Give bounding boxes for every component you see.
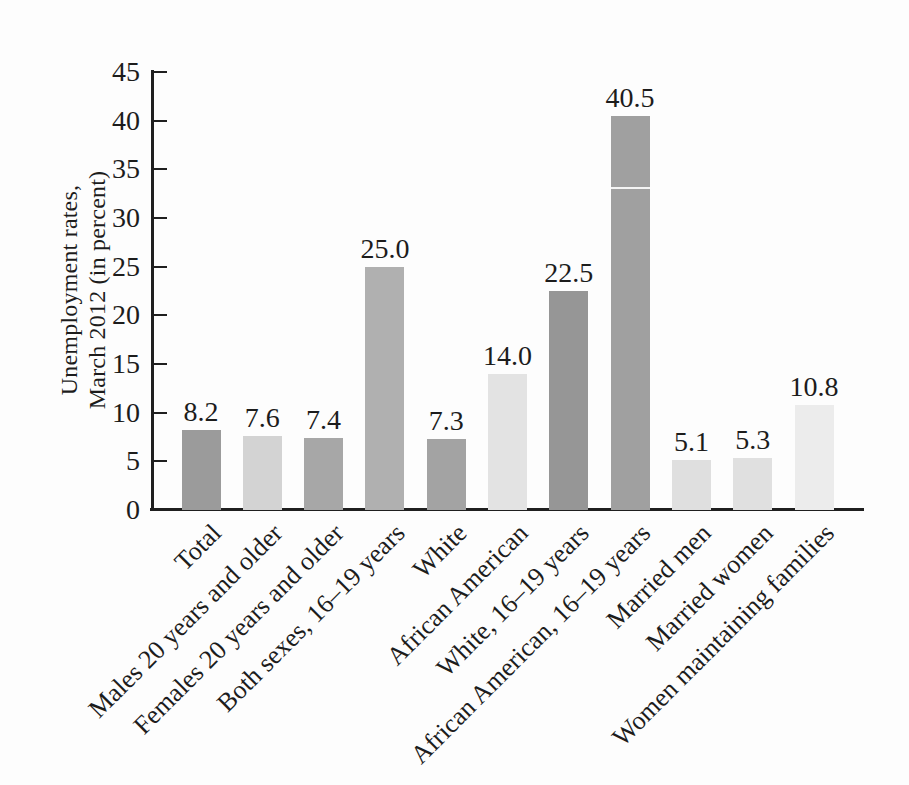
y-axis-title-line2: March 2012 (in percent) <box>83 70 111 510</box>
y-tick-label: 20 <box>58 301 140 329</box>
y-tick-mark <box>153 363 167 365</box>
y-tick-label: 35 <box>58 155 140 183</box>
bar <box>672 460 711 510</box>
bar <box>427 439 466 510</box>
y-tick-mark <box>153 168 167 170</box>
unemployment-bar-chart: Unemployment rates, March 2012 (in perce… <box>0 0 909 785</box>
y-tick-label: 0 <box>58 496 140 524</box>
bar <box>182 430 221 510</box>
bar <box>733 458 772 510</box>
bar <box>549 291 588 510</box>
y-tick-mark <box>153 314 167 316</box>
y-tick-label: 10 <box>58 399 140 427</box>
y-tick-label: 40 <box>58 107 140 135</box>
y-tick-label: 5 <box>58 447 140 475</box>
bar-scan-artifact-line <box>611 187 650 189</box>
bar <box>243 436 282 510</box>
y-tick-label: 25 <box>58 253 140 281</box>
y-tick-mark <box>153 217 167 219</box>
bar-value-label: 10.8 <box>754 372 874 402</box>
bar-value-label: 40.5 <box>570 83 690 113</box>
bar <box>304 438 343 510</box>
y-tick-mark <box>153 266 167 268</box>
y-axis-title-line1: Unemployment rates, <box>55 70 83 510</box>
y-tick-mark <box>153 460 167 462</box>
bar-value-label: 25.0 <box>325 234 445 264</box>
bar <box>365 267 404 510</box>
y-axis-line <box>151 70 154 511</box>
y-tick-label: 45 <box>58 58 140 86</box>
y-axis-title: Unemployment rates, March 2012 (in perce… <box>55 70 111 510</box>
y-tick-mark <box>153 71 167 73</box>
bar <box>488 374 527 510</box>
y-tick-label: 30 <box>58 204 140 232</box>
bar <box>795 405 834 510</box>
y-tick-label: 15 <box>58 350 140 378</box>
y-tick-mark <box>153 120 167 122</box>
